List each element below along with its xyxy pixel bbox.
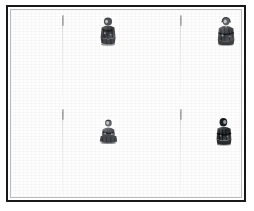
figure-top-right-ink xyxy=(215,16,237,46)
figure-bottom-right xyxy=(214,117,234,146)
figure-bottom-left-ink xyxy=(98,118,119,145)
page-surface xyxy=(11,10,241,197)
figure-bottom-left xyxy=(98,118,119,145)
column-rule-right-upper-tick xyxy=(180,15,182,26)
figure-bottom-right-caption: standing robed figure xyxy=(0,0,1,1)
paper-grain-texture xyxy=(11,10,241,197)
page-title: Scanned illustrated plate xyxy=(0,0,1,1)
scanned-page-image: Scanned illustrated plate White printed … xyxy=(0,0,254,211)
column-rule-right-upper xyxy=(180,15,181,101)
figure-top-right xyxy=(215,16,237,46)
column-rule-right-lower xyxy=(180,109,181,195)
column-rule-left-lower-tick xyxy=(62,109,64,120)
figure-top-left-caption: standing robed figure xyxy=(0,0,1,1)
column-rule-left-upper-tick xyxy=(62,15,64,26)
figure-bottom-right-ink xyxy=(214,117,234,146)
figure-top-left-ink xyxy=(97,16,119,46)
column-rule-left-upper xyxy=(62,15,63,101)
figure-top-left xyxy=(97,16,119,46)
page-description: White printed page inside a dark rectang… xyxy=(0,0,1,1)
plate-border xyxy=(6,5,246,202)
figure-bottom-left-caption: seated figure xyxy=(0,0,1,1)
column-rule-right-lower-tick xyxy=(180,109,182,120)
figure-top-right-caption: standing robed figure xyxy=(0,0,1,1)
column-rule-left-lower xyxy=(62,109,63,195)
